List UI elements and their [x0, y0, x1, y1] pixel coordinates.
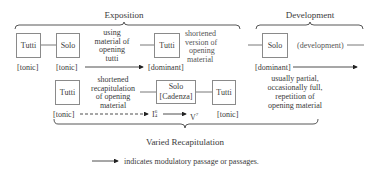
exposition-tutti-note: shortened version of opening material [185, 30, 217, 64]
box-label: Tutti [60, 88, 75, 98]
exposition-title: Exposition [94, 11, 154, 20]
recap-tutti-box: Tutti [55, 80, 80, 105]
box-sublabel: [Cadenza] [160, 92, 193, 102]
box-label: Tutti [159, 41, 174, 51]
legend-text: indicates modulatory passage or passages… [124, 157, 259, 166]
development-note: usually partial, occasionally full, repe… [253, 74, 337, 110]
exposition-tutti-box: Tutti [16, 33, 41, 58]
key-label: [dominant] [148, 63, 184, 72]
box-label: Tutti [21, 41, 36, 51]
box-label: Tutti [216, 88, 231, 98]
key-label: [tonic] [17, 63, 38, 72]
recapitulation-brace [54, 119, 318, 128]
recap-note: shortened recapitulation of opening mate… [84, 76, 142, 110]
development-brace [256, 22, 363, 29]
key-label: [tonic] [53, 110, 74, 119]
development-text: (development) [297, 41, 344, 50]
note-line: usually partial, [253, 74, 337, 83]
note-line: occasionally full, [253, 83, 337, 92]
chord-sub: 4 [155, 114, 158, 118]
box-label: Solo [268, 41, 283, 51]
recap-tutti-final-box: Tutti [212, 80, 236, 105]
chord-v7: V7 [190, 110, 198, 122]
development-title: Development [275, 11, 345, 20]
box-label: Solo [61, 41, 76, 51]
box-label: Solo [169, 82, 184, 92]
note-line: opening material [253, 101, 337, 110]
key-label: [tonic] [217, 110, 238, 119]
recap-solo-cadenza-box: Solo [Cadenza] [156, 80, 196, 104]
note-line: tutti [83, 55, 141, 64]
note-line: material [185, 56, 217, 65]
chord-sup: 7 [196, 112, 199, 117]
exposition-brace [15, 22, 240, 29]
development-solo-box: Solo [262, 33, 288, 58]
key-label: [tonic] [56, 63, 77, 72]
recapitulation-title: Varied Recapitulation [135, 138, 235, 147]
exposition-tutti-dominant-box: Tutti [154, 33, 180, 58]
exposition-solo-note: using material of opening tutti [83, 29, 141, 63]
chord-i64: I64 [152, 110, 157, 119]
note-line: material [84, 102, 142, 111]
note-line: repetition of [253, 92, 337, 101]
key-label: [dominant] [255, 63, 291, 72]
exposition-solo-box: Solo [56, 33, 80, 58]
